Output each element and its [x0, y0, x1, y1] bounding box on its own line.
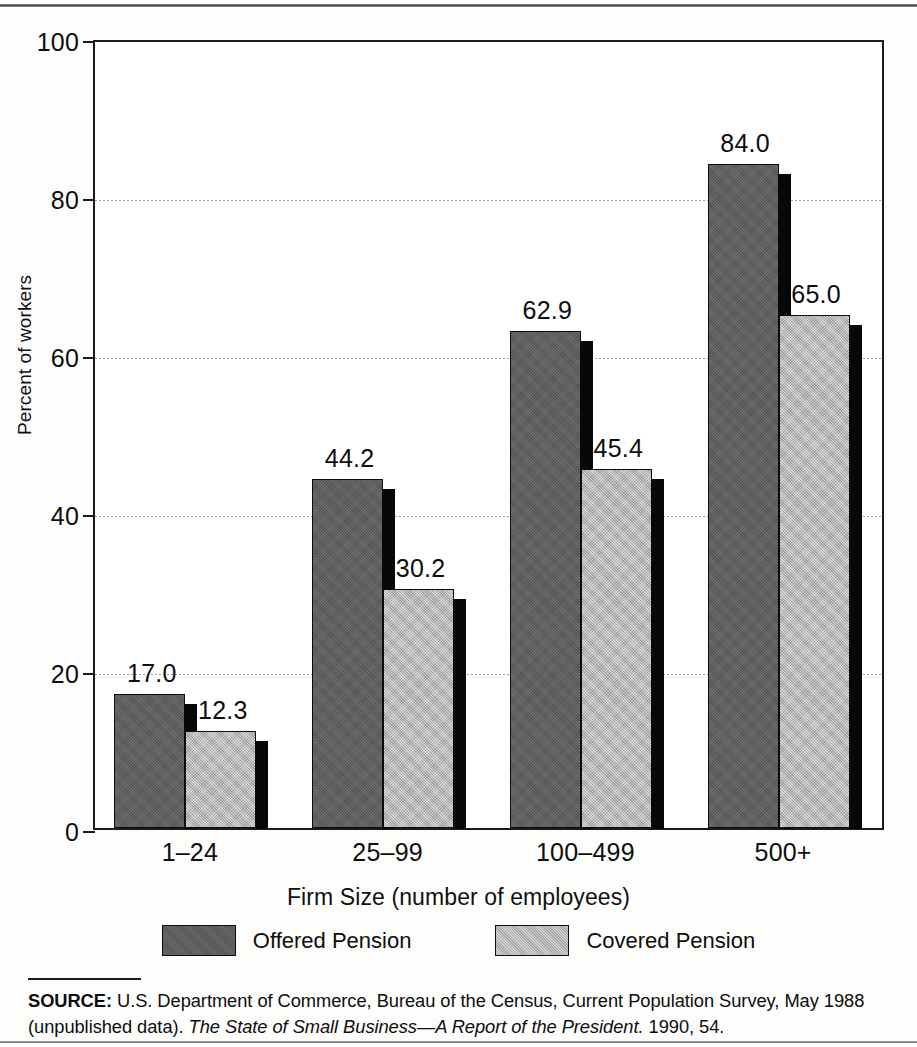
y-axis-tick — [83, 515, 95, 517]
legend-item[interactable]: Offered Pension — [162, 925, 412, 956]
y-axis-tick-label: 0 — [65, 818, 79, 847]
page-top-rule — [0, 4, 917, 7]
bar-value-label: 12.3 — [198, 696, 247, 725]
bar-offered[interactable]: 62.9 — [510, 331, 581, 828]
bar-covered[interactable]: 12.3 — [185, 731, 256, 828]
bar-value-label: 62.9 — [523, 296, 572, 325]
bar-value-label: 44.2 — [325, 444, 374, 473]
bar-offered[interactable]: 44.2 — [312, 479, 383, 828]
legend-swatch-covered — [495, 925, 569, 956]
bar-value-label: 45.4 — [594, 434, 643, 463]
bar-group: 62.945.4 — [510, 42, 665, 828]
chart-legend: Offered PensionCovered Pension — [0, 925, 917, 956]
legend-label: Offered Pension — [253, 928, 412, 954]
source-note: SOURCE: U.S. Department of Commerce, Bur… — [28, 978, 890, 1040]
y-axis-title: Percent of workers — [14, 275, 36, 435]
legend-swatch-offered — [162, 925, 236, 956]
bar-value-label: 65.0 — [791, 280, 840, 309]
bar-value-label: 17.0 — [127, 659, 176, 688]
x-axis-category-label: 500+ — [755, 838, 812, 867]
bar-covered[interactable]: 30.2 — [383, 589, 454, 828]
bar-group: 84.065.0 — [708, 42, 863, 828]
source-label: SOURCE: — [28, 990, 112, 1011]
x-axis-title: Firm Size (number of employees) — [0, 884, 917, 911]
bar-shadow — [849, 325, 862, 829]
bar-value-label: 30.2 — [396, 554, 445, 583]
x-axis-category-label: 100–499 — [536, 838, 635, 867]
source-divider — [28, 978, 141, 980]
x-axis-category-label: 25–99 — [352, 838, 423, 867]
bar-group: 44.230.2 — [312, 42, 467, 828]
source-body-2: 1990, 54. — [644, 1016, 725, 1037]
plot-area: 020406080100 17.012.344.230.262.945.484.… — [93, 40, 884, 830]
legend-item[interactable]: Covered Pension — [495, 925, 755, 956]
bar-offered[interactable]: 17.0 — [114, 694, 185, 828]
bar-shadow — [255, 741, 268, 829]
y-axis-tick-label: 100 — [37, 28, 79, 57]
bar-group: 17.012.3 — [114, 42, 269, 828]
bar-value-label: 84.0 — [720, 129, 769, 158]
bar-shadow — [651, 479, 664, 828]
source-text: SOURCE: U.S. Department of Commerce, Bur… — [28, 988, 890, 1040]
y-axis-tick-label: 80 — [51, 186, 79, 215]
y-axis-tick — [83, 831, 95, 833]
y-axis-tick-label: 20 — [51, 660, 79, 689]
legend-label: Covered Pension — [586, 928, 755, 954]
bar-covered[interactable]: 65.0 — [779, 315, 850, 829]
bar-covered[interactable]: 45.4 — [581, 469, 652, 828]
figure-bar-chart-pension-coverage: Percent of workers 020406080100 17.012.3… — [0, 0, 917, 1047]
y-axis-tick — [83, 357, 95, 359]
source-publication-title: The State of Small Business—A Report of … — [189, 1016, 644, 1037]
y-axis-tick — [83, 41, 95, 43]
x-axis-category-label: 1–24 — [162, 838, 218, 867]
y-axis-tick — [83, 199, 95, 201]
page-bottom-rule — [0, 1041, 917, 1043]
y-axis-tick — [83, 673, 95, 675]
bar-offered[interactable]: 84.0 — [708, 164, 779, 828]
bar-shadow — [453, 599, 466, 828]
y-axis-tick-label: 60 — [51, 344, 79, 373]
y-axis-tick-label: 40 — [51, 502, 79, 531]
